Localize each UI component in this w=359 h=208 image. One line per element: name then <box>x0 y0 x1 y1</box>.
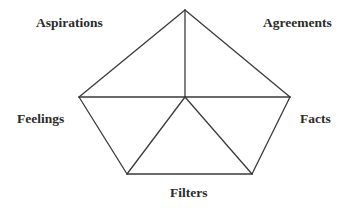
edge-left-bottom-left <box>79 97 127 174</box>
label-facts: Facts <box>300 112 331 126</box>
label-filters: Filters <box>170 186 207 200</box>
label-feelings: Feelings <box>17 112 64 126</box>
label-aspirations: Aspirations <box>36 16 103 30</box>
pentagon-diagram <box>0 0 359 208</box>
label-agreements: Agreements <box>263 16 332 30</box>
edge-right-bottom-right <box>252 97 290 174</box>
edge-center-bottom-left <box>127 97 185 174</box>
edge-center-bottom-right <box>185 97 252 174</box>
